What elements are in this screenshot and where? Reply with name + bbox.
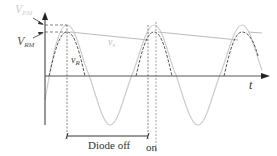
decay-line-2 — [158, 32, 238, 40]
label-v-s: vs — [108, 36, 115, 49]
label-v-s-sub: s — [112, 41, 115, 49]
y-axis-arrow-icon — [42, 12, 48, 20]
label-t-axis: t — [249, 78, 252, 93]
waveform-plot — [0, 0, 277, 156]
vrm-pointer-arrowhead-icon — [38, 32, 44, 35]
decay-line-3 — [248, 32, 262, 33]
vrm-pointer-arrow — [33, 33, 43, 38]
rectifier-waveform-diagram: VPM VRM vs vR t Diode off on — [0, 0, 277, 156]
label-diode-off: Diode off — [88, 139, 130, 151]
label-v-rm-sub: RM — [24, 41, 34, 49]
label-v-rm: VRM — [17, 34, 34, 49]
label-v-peak-top-sub: PM — [22, 9, 32, 17]
label-diode-on: on — [146, 141, 157, 153]
t-axis-arrow-icon — [261, 73, 270, 79]
vpm-pointer-arrowhead-icon — [38, 21, 44, 25]
label-v-r-sub: R — [75, 59, 79, 67]
label-v-peak-top: VPM — [15, 2, 32, 17]
label-v-r: vR — [71, 54, 80, 67]
source-sine-wave — [45, 25, 262, 125]
